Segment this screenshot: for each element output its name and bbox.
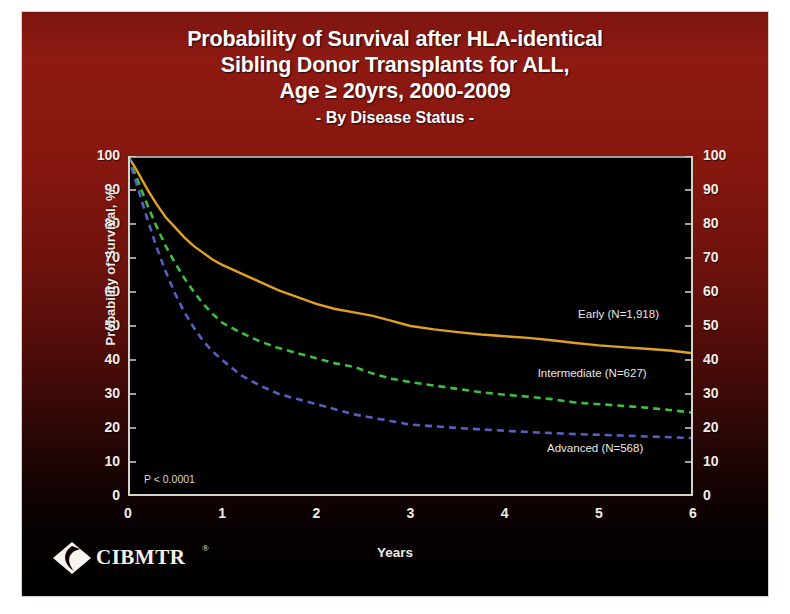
x-tick-label: 6 [678, 505, 708, 521]
y-tick-label-left: 0 [86, 487, 120, 503]
x-tick-label: 4 [490, 505, 520, 521]
p-value-annotation: P < 0.0001 [144, 473, 195, 485]
y-axis-label: Probability of Survival, % [103, 148, 118, 388]
y-tick-label-left: 10 [86, 453, 120, 469]
y-tick-label-right: 70 [703, 249, 737, 265]
y-tick-label-right: 20 [703, 419, 737, 435]
cibmtr-diamond-icon [50, 539, 94, 577]
y-tick-label-right: 60 [703, 283, 737, 299]
y-tick-label-right: 50 [703, 317, 737, 333]
y-tick-label-right: 80 [703, 215, 737, 231]
chart-plot: 0010102020303040405050606070708080909010… [22, 12, 768, 596]
y-tick-label-right: 40 [703, 351, 737, 367]
x-tick-label: 0 [113, 505, 143, 521]
curve-early [128, 156, 693, 353]
y-tick-label-left: 20 [86, 419, 120, 435]
cibmtr-logo: CIBMTR ® [50, 539, 270, 577]
curve-advanced [128, 156, 693, 438]
x-tick-label: 3 [396, 505, 426, 521]
y-tick-label-right: 90 [703, 181, 737, 197]
y-tick-label-right: 10 [703, 453, 737, 469]
curve-label-advanced: Advanced (N=568) [547, 442, 643, 454]
cibmtr-wordmark: CIBMTR [96, 545, 185, 570]
x-tick-label: 2 [301, 505, 331, 521]
curve-label-intermediate: Intermediate (N=627) [538, 367, 647, 379]
slide-canvas: Probability of Survival after HLA-identi… [22, 12, 768, 596]
y-tick-label-right: 100 [703, 147, 737, 163]
x-tick-label: 1 [207, 505, 237, 521]
y-tick-label-right: 30 [703, 385, 737, 401]
x-tick-label: 5 [584, 505, 614, 521]
registered-mark-icon: ® [202, 543, 209, 553]
curve-label-early: Early (N=1,918) [578, 308, 659, 320]
y-tick-label-right: 0 [703, 487, 737, 503]
